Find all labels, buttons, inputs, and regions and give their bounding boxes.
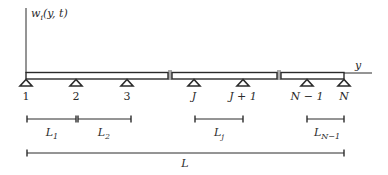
- dimension-L-total: [27, 150, 344, 157]
- beam-segment-2: [172, 73, 277, 80]
- beam: [26, 73, 344, 80]
- dimension-label-L-total: L: [180, 157, 188, 170]
- dimension-labels: L1 L2 Lj LN−1 L: [45, 126, 340, 170]
- support-triangle-icon: [188, 80, 200, 87]
- support-label: N − 1: [290, 90, 324, 103]
- support-triangle-icon: [338, 80, 350, 87]
- span-dimensions: [27, 116, 344, 157]
- support-label: 1: [23, 90, 30, 103]
- dimension-L2: [78, 116, 131, 123]
- support-triangle-icon: [237, 80, 249, 87]
- beam-segment-3: [281, 73, 344, 80]
- support-label: J: [190, 90, 197, 103]
- support-triangle-icon: [70, 80, 82, 87]
- support-triangle-icon: [20, 80, 32, 87]
- dimension-LN-1: [307, 116, 344, 123]
- support-triangle-icon: [121, 80, 133, 87]
- support-labels: 1 2 3 J J + 1 N − 1 N: [23, 90, 350, 103]
- dimension-label-L2: L2: [97, 126, 110, 141]
- supports: [20, 80, 350, 87]
- support-label: 3: [124, 90, 131, 103]
- horizontal-axis-label: y: [354, 59, 362, 72]
- dimension-label-LN-1: LN−1: [313, 126, 340, 141]
- dimension-label-L1: L1: [45, 126, 58, 141]
- dimension-Lj: [195, 116, 243, 123]
- beam-diagram: wi(y, t) y 1 2 3 J J + 1 N − 1 N: [0, 0, 388, 175]
- support-label: J + 1: [227, 90, 257, 103]
- support-triangle-icon: [301, 80, 313, 87]
- beam-segment-1: [26, 73, 168, 80]
- dimension-label-Lj: Lj: [213, 126, 224, 141]
- vertical-axis-label: wi(y, t): [31, 7, 68, 22]
- support-label: 2: [73, 90, 80, 103]
- support-label: N: [338, 90, 349, 103]
- dimension-L1: [27, 116, 76, 123]
